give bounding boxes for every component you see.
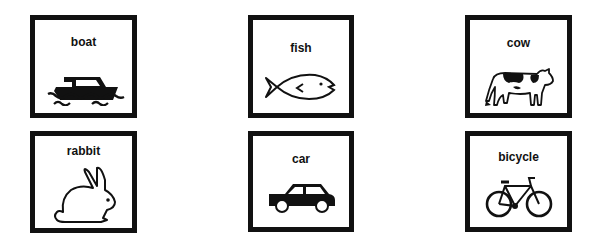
card-fish[interactable]: fish [248, 15, 354, 118]
fish-icon [253, 72, 349, 102]
card-cow[interactable]: cow [465, 15, 572, 118]
card-label: fish [253, 41, 349, 55]
card-car[interactable]: car [248, 131, 354, 232]
boat-icon [35, 64, 132, 106]
card-label: boat [35, 35, 132, 49]
card-label: rabbit [35, 144, 132, 158]
card-rabbit[interactable]: rabbit [30, 131, 137, 233]
card-boat[interactable]: boat [30, 15, 137, 118]
card-bicycle[interactable]: bicycle [465, 131, 572, 232]
car-icon [253, 178, 349, 214]
card-label: cow [470, 36, 567, 50]
card-label: car [253, 152, 349, 166]
card-label: bicycle [470, 150, 567, 164]
cow-icon [470, 59, 567, 109]
bicycle-icon [470, 174, 567, 220]
rabbit-icon [35, 164, 132, 226]
